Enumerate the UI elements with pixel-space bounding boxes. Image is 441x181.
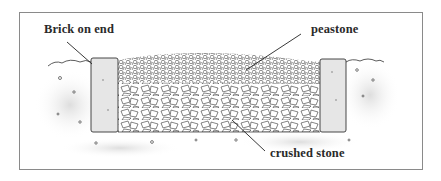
crushed-stone-layer	[118, 82, 320, 132]
label-brick-on-end: Brick on end	[44, 22, 114, 37]
brick-left	[91, 58, 118, 132]
peastone-layer	[118, 53, 320, 84]
brick-right	[320, 59, 346, 132]
label-crushed-stone: crushed stone	[270, 146, 345, 161]
label-peastone: peastone	[311, 22, 358, 37]
leader-brick	[67, 42, 92, 64]
